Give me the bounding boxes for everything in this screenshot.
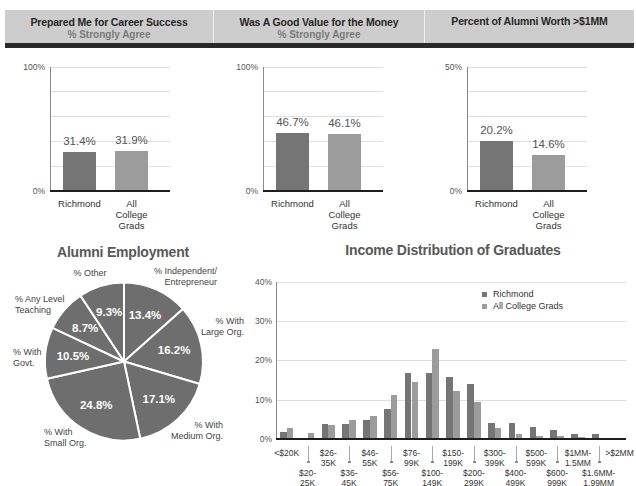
bar-richmond (322, 424, 329, 439)
bar-richmond (509, 423, 516, 439)
bar-value-label: 31.9% (103, 133, 160, 147)
bar-chart-career-success: 100%0%31.4%Richmond31.9%AllCollegeGrads (50, 0, 51, 1)
bar-all-college-grads (328, 425, 335, 439)
bar-value-label: 46.1% (316, 116, 373, 130)
category-label-line: All (518, 198, 579, 209)
x-axis-baseline (263, 190, 383, 192)
x-tick-label-line: >$2MM (598, 449, 636, 459)
pie-label-line: Govt. (13, 358, 53, 369)
category-label-line: College (101, 209, 162, 220)
pie-value-label: 16.2% (154, 343, 194, 357)
x-tick-label-line: 75K (369, 479, 413, 486)
bar-richmond (426, 373, 433, 439)
x-tick-label-line: <$20K (265, 449, 309, 459)
x-tick-label: $600-999K (535, 469, 579, 486)
header-title: Percent of Alumni Worth >$1MM (425, 15, 634, 28)
pie-value-label: 13.4% (125, 308, 165, 322)
bar-chart-worth-1mm: 50%0%20.2%Richmond14.6%AllCollegeGrads (467, 0, 468, 1)
pie-value-label: 10.5% (53, 349, 93, 363)
x-tick-label: $76-99K (390, 449, 434, 468)
y-tick-label-min: 0% (427, 186, 462, 196)
x-axis-baseline (50, 190, 170, 192)
x-tick-label: $150-199K (431, 449, 475, 468)
employment-chart-title: Alumni Employment (23, 243, 223, 261)
pie-label-govt: % With Govt. (13, 347, 53, 369)
bar-all-college-grads (349, 420, 356, 439)
bar-all-college-grads (370, 416, 377, 439)
x-tick-label-line: 499K (494, 479, 538, 486)
y-tick-label-min: 0% (10, 186, 45, 196)
x-tick-label-line: 399K (473, 459, 517, 469)
pie-label-large-org: % With Large Org. (180, 316, 244, 338)
gridline (50, 67, 170, 68)
pie-label-line: Small Org. (44, 438, 104, 449)
bar-richmond (467, 384, 474, 439)
x-tick-label: $20-25K (286, 469, 330, 486)
y-axis (276, 282, 277, 439)
pie-value-label: 24.8% (76, 398, 116, 412)
pie-value-labels: 13.4%16.2%17.1%24.8%10.5%8.7%9.3% (0, 0, 1, 1)
bar-all-college-grads (115, 151, 148, 191)
category-label-line: College (314, 209, 375, 220)
legend-swatch-richmond-icon (482, 292, 487, 297)
pie-label-line: % With (180, 316, 244, 327)
x-tick-label-line: 45K (327, 479, 371, 486)
pie-label-line: % Other (60, 268, 120, 279)
legend-label: All College Grads (493, 301, 563, 312)
pie-label-line: % Independent/ (140, 266, 217, 277)
x-tick-label-line: 35K (306, 459, 350, 469)
bar-value-label: 20.2% (468, 123, 525, 137)
y-tick-label: 0% (244, 434, 272, 444)
x-tick-label: $200-299K (452, 469, 496, 486)
pie-label-line: % With (150, 420, 223, 431)
bar-richmond (276, 133, 309, 191)
x-tick-label: $56-75K (369, 469, 413, 486)
pie-label-line: % With (13, 347, 53, 358)
category-label-line: All (314, 198, 375, 209)
gridline (467, 116, 587, 117)
y-tick-label: 20% (244, 355, 272, 365)
x-tick-label: $36-45K (327, 469, 371, 486)
category-label: AllCollegeGrads (314, 198, 375, 231)
pie-label-teaching: % Any Level Teaching (15, 294, 75, 316)
header-subtitle: % Strongly Agree (214, 29, 424, 40)
x-axis-baseline (276, 438, 626, 440)
x-tick-label: $1.6MM-1.99MM (577, 469, 621, 486)
tick-leader-arrow-icon (598, 461, 601, 463)
pie-label-line: % Any Level (15, 294, 75, 305)
bar-chart-good-value: 100%0%46.7%Richmond46.1%AllCollegeGrads (263, 0, 264, 1)
category-label: AllCollegeGrads (101, 198, 162, 231)
gridline (263, 91, 383, 92)
x-tick-label: $500-599K (514, 449, 558, 468)
x-tick-label-line: 299K (452, 479, 496, 486)
y-tick-label-max: 100% (10, 62, 45, 72)
gridline (276, 321, 626, 322)
pie-label-other: % Other (60, 268, 120, 279)
bar-richmond (488, 423, 495, 439)
bar-all-college-grads (391, 395, 398, 439)
gridline (467, 67, 587, 68)
x-axis-baseline (467, 190, 587, 192)
y-axis (50, 67, 51, 192)
bar-richmond (405, 373, 412, 439)
header-subtitle: % Strongly Agree (5, 29, 213, 40)
x-tick-label: $400-499K (494, 469, 538, 486)
pie-label-small-org: % With Small Org. (44, 427, 104, 449)
bar-richmond (363, 420, 370, 439)
pie-label-medium-org: % With Medium Org. (150, 420, 223, 442)
x-tick-label-line: 1.99MM (577, 479, 621, 486)
bar-richmond (446, 377, 453, 439)
gridline (50, 91, 170, 92)
y-tick-label-min: 0% (223, 186, 258, 196)
bar-all-college-grads (474, 402, 481, 439)
pie-label-independent: % Independent/ Entrepreneur (140, 266, 217, 288)
gridline (276, 360, 626, 361)
x-tick-label-line: 599K (514, 459, 558, 469)
bar-all-college-grads (432, 349, 439, 439)
bar-all-college-grads (412, 382, 419, 439)
pie-label-line: % With (44, 427, 104, 438)
legend-label: Richmond (493, 289, 534, 300)
x-tick-label-line: 1.5MM (556, 459, 600, 469)
bar-richmond (480, 141, 513, 191)
x-tick-label: >$2MM (598, 449, 636, 459)
